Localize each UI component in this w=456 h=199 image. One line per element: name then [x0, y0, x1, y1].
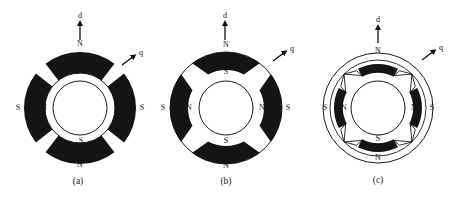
outer-label-top: N: [77, 39, 83, 48]
q-axis-arrow: [422, 51, 434, 60]
q-axis-label: q: [290, 44, 294, 53]
inner-label-bottom: S: [79, 136, 83, 145]
caption-c: (c): [373, 175, 384, 186]
inner-label-right: N: [411, 103, 417, 112]
outer-label-right: S: [140, 103, 144, 112]
inner-label-bottom: S: [376, 134, 380, 143]
d-axis-label: d: [78, 11, 82, 20]
inner-label-left: N: [41, 103, 47, 112]
pm-rotor-figure: d q N S N S S N S N (a) d q N S N S S N …: [0, 0, 456, 199]
inner-label-bottom: S: [224, 136, 228, 145]
d-axis-label: d: [223, 11, 227, 20]
outer-label-bottom: N: [77, 160, 83, 169]
outer-label-bottom: N: [375, 153, 381, 162]
panel-c: d q N S N S S N S N (c): [323, 15, 443, 186]
panel-b: d q N S N S S N S N (b): [161, 11, 294, 187]
shaft-circle: [53, 81, 107, 135]
shaft-circle: [199, 81, 253, 135]
outer-label-left: S: [323, 103, 327, 112]
panel-a: d q N S N S S N S N (a): [16, 11, 144, 187]
inner-label-right: N: [114, 103, 120, 112]
inner-label-top: S: [224, 67, 228, 76]
outer-label-left: S: [161, 103, 165, 112]
q-axis-label: q: [139, 48, 143, 57]
inner-label-top: S: [76, 67, 80, 76]
outer-label-right: S: [286, 103, 290, 112]
q-axis-arrow: [273, 52, 285, 61]
inner-label-top: S: [376, 65, 380, 74]
q-axis-label: q: [439, 43, 443, 52]
inner-label-left: N: [186, 103, 192, 112]
caption-b: (b): [220, 176, 231, 187]
inner-label-left: N: [341, 103, 347, 112]
outer-label-bottom: N: [223, 161, 229, 170]
caption-a: (a): [73, 176, 84, 187]
outer-label-top: N: [223, 40, 229, 49]
q-axis-arrow: [122, 56, 134, 65]
outer-label-left: S: [16, 103, 20, 112]
outer-label-top: N: [375, 46, 381, 55]
shaft-circle: [351, 81, 405, 135]
d-axis-label: d: [376, 15, 380, 24]
inner-label-right: N: [259, 103, 265, 112]
outer-label-right: S: [430, 103, 434, 112]
